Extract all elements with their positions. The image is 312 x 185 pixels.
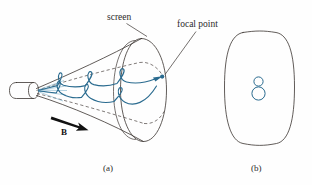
screen-ellipse <box>114 41 136 140</box>
electron-gun-aperture <box>29 83 34 99</box>
physics-figure-cathode-ray-focusing: screen focal point B (a) (b) <box>0 0 312 185</box>
focal-point-leader-line <box>165 32 196 75</box>
screen-rim-dashed-top <box>140 62 164 77</box>
electron-gun-tube <box>10 83 39 99</box>
focal-point-label: focal point <box>177 19 218 29</box>
screen-label: screen <box>107 12 132 22</box>
helical-trajectory-lower <box>39 81 157 104</box>
caption-b: (b) <box>251 163 262 173</box>
screen-face-outline <box>225 31 295 145</box>
helical-trajectory-upper <box>39 69 156 91</box>
cone-front-ellipse <box>121 39 167 142</box>
spot-upper-circle <box>254 77 263 86</box>
caption-a: (a) <box>103 163 113 173</box>
focal-point-marker <box>160 75 164 79</box>
spot-lower-circle <box>252 87 265 100</box>
screen-leader-line <box>127 24 148 37</box>
screen-rim-dashed-bottom <box>144 112 164 124</box>
magnetic-field-label: B <box>61 127 67 137</box>
magnetic-field-arrow <box>51 117 89 131</box>
figure-canvas: screen focal point B (a) (b) <box>0 0 312 185</box>
panel-a-group: screen focal point B (a) <box>10 12 219 173</box>
panel-b-group: (b) <box>225 31 295 173</box>
